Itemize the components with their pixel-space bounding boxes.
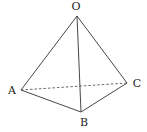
tetrahedron-diagram: O A B C — [0, 0, 147, 132]
vertex-label-a: A — [7, 84, 17, 97]
vertex-label-c: C — [133, 77, 141, 90]
edge-b-c — [81, 83, 127, 112]
vertex-label-o: O — [71, 0, 80, 13]
edge-a-b — [21, 90, 81, 112]
edge-a-c-hidden — [21, 83, 127, 90]
edge-o-c — [77, 16, 127, 83]
edge-o-a — [21, 16, 77, 90]
edge-o-b — [77, 16, 81, 112]
vertex-label-b: B — [80, 116, 88, 129]
